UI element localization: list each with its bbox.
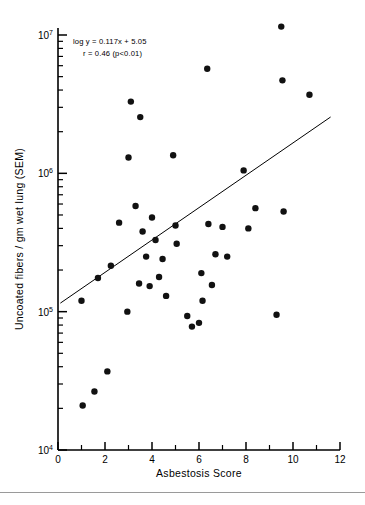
- data-point: [306, 92, 312, 98]
- x-tick-label: 4: [149, 454, 155, 465]
- data-point: [149, 214, 155, 220]
- data-point: [146, 283, 152, 289]
- data-point: [224, 253, 230, 259]
- y-tick-label: 106: [38, 167, 53, 179]
- data-point: [278, 23, 284, 29]
- y-tick-label: 107: [38, 29, 53, 41]
- data-point: [204, 66, 210, 72]
- data-point: [196, 320, 202, 326]
- data-point: [212, 251, 218, 257]
- x-axis-tick-labels: 024681012: [55, 454, 346, 465]
- data-point: [139, 228, 145, 234]
- data-point: [173, 240, 179, 246]
- data-point: [125, 154, 131, 160]
- data-point: [124, 308, 130, 314]
- data-point: [199, 298, 205, 304]
- y-axis-ticks: [58, 35, 67, 450]
- data-point: [172, 222, 178, 228]
- data-point: [279, 77, 285, 83]
- x-axis-title: Asbestosis Score: [156, 467, 242, 479]
- correlation-annotation: r = 0.46 (p<0.01): [83, 49, 142, 58]
- data-point: [245, 225, 251, 231]
- data-point: [95, 275, 101, 281]
- data-point: [198, 270, 204, 276]
- scatter-plot-figure: 104105106107 024681012 log y = 0.117x + …: [0, 0, 365, 505]
- data-point: [116, 219, 122, 225]
- data-point: [252, 205, 258, 211]
- data-point: [156, 274, 162, 280]
- x-tick-label: 12: [334, 454, 346, 465]
- x-axis-ticks: [58, 442, 340, 450]
- data-point: [108, 262, 114, 268]
- data-point: [209, 282, 215, 288]
- plot-canvas: 104105106107 024681012 log y = 0.117x + …: [0, 0, 365, 505]
- y-axis-tick-labels: 104105106107: [38, 29, 53, 456]
- data-point: [143, 253, 149, 259]
- data-point: [79, 402, 85, 408]
- data-point: [280, 208, 286, 214]
- bottom-divider: [0, 492, 365, 493]
- data-point: [132, 203, 138, 209]
- data-point: [159, 256, 165, 262]
- x-tick-label: 10: [287, 454, 299, 465]
- data-point: [128, 98, 134, 104]
- data-point: [136, 280, 142, 286]
- regression-line: [60, 117, 330, 303]
- x-tick-label: 6: [196, 454, 202, 465]
- data-point: [152, 237, 158, 243]
- data-points-group: [78, 23, 312, 408]
- data-point: [189, 323, 195, 329]
- data-point: [163, 293, 169, 299]
- x-tick-label: 0: [55, 454, 61, 465]
- data-point: [104, 368, 110, 374]
- axes-group: [58, 28, 340, 450]
- data-point: [273, 312, 279, 318]
- data-point: [170, 152, 176, 158]
- y-tick-label: 105: [38, 306, 53, 318]
- data-point: [219, 224, 225, 230]
- y-tick-label: 104: [38, 444, 53, 456]
- data-point: [78, 298, 84, 304]
- data-point: [91, 388, 97, 394]
- x-tick-label: 8: [243, 454, 249, 465]
- data-point: [137, 114, 143, 120]
- data-point: [205, 221, 211, 227]
- regression-equation-annotation: log y = 0.117x + 5.05: [73, 37, 147, 46]
- y-axis-title: Uncoated fibers / gm wet lung (SEM): [13, 148, 25, 330]
- data-point: [240, 167, 246, 173]
- x-tick-label: 2: [102, 454, 108, 465]
- data-point: [184, 313, 190, 319]
